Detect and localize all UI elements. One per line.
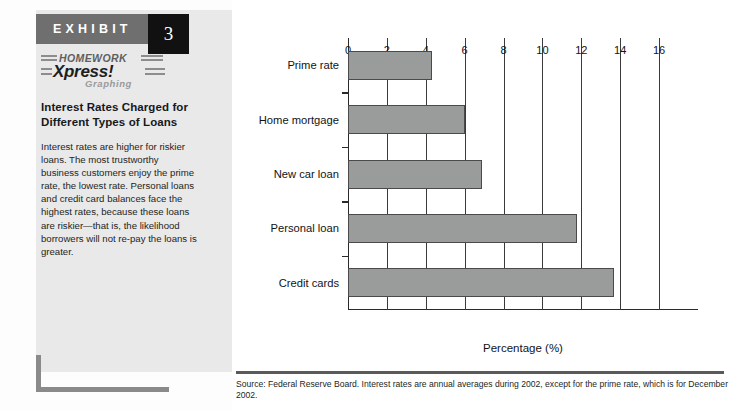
- corner-accent-horizontal: [36, 387, 169, 392]
- logo-stripe-icon: [41, 59, 57, 61]
- exhibit-number: 3: [164, 23, 174, 45]
- source-note: Source: Federal Reserve Board. Interest …: [236, 379, 728, 401]
- y-axis-tick: [342, 147, 348, 148]
- category-label: Credit cards: [279, 277, 339, 289]
- bar: [348, 160, 482, 189]
- x-tick-label: 10: [536, 44, 548, 56]
- bar: [348, 268, 614, 297]
- x-tick-label: 12: [575, 44, 587, 56]
- logo-stripe-icon: [141, 55, 163, 57]
- logo-stripe-icon: [145, 73, 165, 75]
- exhibit-title: Interest Rates Charged for Different Typ…: [41, 100, 201, 129]
- logo-stripe-icon: [41, 55, 57, 57]
- exhibit-label: EXHIBIT: [36, 22, 132, 36]
- exhibit-page: EXHIBIT 3 HOMEWORK Xpress! Graphing Inte…: [0, 0, 742, 411]
- logo-stripe-icon: [41, 73, 52, 75]
- x-tick-label: 14: [614, 44, 626, 56]
- y-axis-tick: [342, 92, 348, 93]
- bar: [348, 51, 432, 80]
- chart-region: 0246810121416Prime rateHome mortgageNew …: [232, 0, 742, 411]
- logo-text-graphing: Graphing: [85, 78, 132, 89]
- y-axis-tick: [342, 201, 348, 202]
- logo-stripe-icon: [145, 68, 165, 70]
- bar: [348, 105, 465, 134]
- logo-stripe-icon: [141, 59, 163, 61]
- x-tick-label: 6: [462, 44, 468, 56]
- category-label: Prime rate: [287, 59, 339, 71]
- category-label: New car loan: [274, 168, 339, 180]
- bar-chart-plot-area: 0246810121416Prime rateHome mortgageNew …: [348, 38, 698, 310]
- y-axis-tick: [342, 256, 348, 257]
- x-axis-title: Percentage (%): [348, 342, 698, 354]
- exhibit-description: Interest rates are higher for riskier lo…: [41, 140, 199, 258]
- bar: [348, 214, 577, 243]
- exhibit-number-box: 3: [148, 14, 189, 54]
- gridline: [659, 38, 660, 310]
- x-tick-label: 16: [653, 44, 665, 56]
- homework-xpress-logo: HOMEWORK Xpress! Graphing: [41, 52, 171, 90]
- source-divider: [236, 371, 724, 374]
- category-label: Personal loan: [271, 222, 339, 234]
- x-tick-label: 8: [500, 44, 506, 56]
- gridline: [620, 38, 621, 310]
- logo-stripe-icon: [41, 68, 52, 70]
- category-label: Home mortgage: [259, 114, 339, 126]
